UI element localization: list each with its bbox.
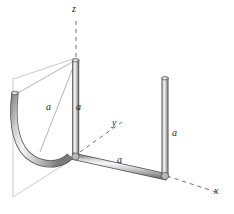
axis-label-x: x [214,186,218,196]
figure-canvas: z y x a a a a [0,0,234,214]
dimension-label-a-bottom: a [117,155,122,165]
rod-end-cap-far [162,77,169,80]
rod-end-cap-vertical [72,59,79,62]
dimension-label-a-vertical: a [76,102,81,112]
dimension-label-a-right: a [172,128,177,138]
rod-end-cap-curved [12,91,19,95]
axis-label-y: y [112,118,116,128]
dimension-label-a-diagonal: a [46,102,51,112]
reference-plane [13,58,76,197]
bent-rod-diagram-svg [0,0,234,214]
axis-x [167,176,216,192]
rod-vertical-far [162,77,169,179]
axis-label-z: z [72,4,76,14]
